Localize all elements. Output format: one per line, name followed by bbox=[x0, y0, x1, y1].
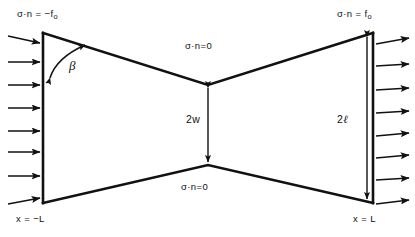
traction-arrows-left bbox=[8, 36, 40, 204]
traction-arrow-right-1 bbox=[376, 38, 409, 44]
traction-arrow-right-7 bbox=[376, 178, 409, 180]
label-coordinate-x-right: x = L bbox=[353, 213, 376, 224]
traction-arrow-right-6 bbox=[376, 155, 409, 158]
figure-root: σ·n = −fo σ·n = fo σ·n=0 σ·n=0 2w 2ℓ x =… bbox=[0, 0, 415, 237]
label-coordinate-x-left: x = −L bbox=[16, 213, 45, 224]
traction-arrow-right-8 bbox=[376, 200, 409, 204]
traction-arrow-right-2 bbox=[376, 64, 409, 66]
label-traction-left-edge: σ·n = −fo bbox=[17, 8, 58, 21]
traction-arrow-left-1 bbox=[8, 36, 40, 43]
label-dimension-2l-symbol: ℓ bbox=[343, 113, 348, 125]
traction-arrow-right-3 bbox=[376, 88, 409, 90]
label-traction-left-text: σ·n = −f bbox=[17, 8, 54, 19]
label-traction-right-text: σ·n = f bbox=[337, 8, 368, 19]
label-traction-free-top: σ·n=0 bbox=[185, 40, 212, 51]
angle-arc-beta bbox=[50, 45, 85, 78]
label-traction-left-subscript: o bbox=[54, 12, 59, 21]
traction-arrow-left-8 bbox=[8, 198, 40, 204]
diagram-canvas bbox=[0, 0, 415, 237]
label-traction-right-subscript: o bbox=[368, 12, 373, 21]
label-dimension-2w: 2w bbox=[186, 113, 200, 125]
label-dimension-2l: 2ℓ bbox=[337, 113, 348, 125]
traction-arrows-right bbox=[376, 38, 409, 204]
traction-arrow-right-4 bbox=[376, 111, 409, 113]
label-traction-right-edge: σ·n = fo bbox=[337, 8, 372, 21]
label-traction-free-bottom: σ·n=0 bbox=[181, 181, 208, 192]
label-angle-beta: β bbox=[69, 58, 76, 74]
traction-arrow-right-5 bbox=[376, 133, 409, 136]
